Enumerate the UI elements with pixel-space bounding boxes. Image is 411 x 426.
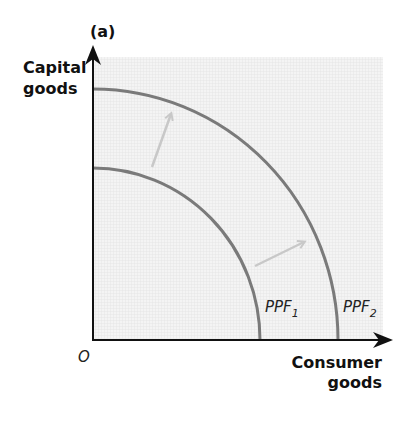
plot-area [93, 57, 383, 340]
x-axis-label-line1: Consumer [292, 353, 383, 372]
x-axis-label-line2: goods [328, 373, 382, 392]
y-axis-label-line1: Capital [23, 58, 86, 77]
origin-label: O [78, 348, 90, 366]
chart-title: (a) [90, 22, 115, 41]
y-axis-label-line2: goods [23, 79, 77, 98]
ppf-chart: (a) Capital goods Consumer goods O PPF1 … [0, 0, 411, 426]
